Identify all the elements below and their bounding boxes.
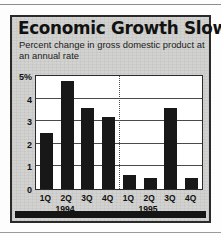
x-axis-tick-label: 3Q [81,193,92,203]
chart-title: Economic Growth Slows [18,18,221,38]
plot-area-wrapper: 012345% 1Q2Q3Q4Q1Q2Q3Q4Q19941995 [35,75,203,190]
chart-subtitle: Percent change in gross domestic product… [19,39,205,62]
plot-area [35,75,203,190]
chart-figure: Economic Growth Slows Percent change in … [10,15,211,223]
y-axis-tick-label: 3 [27,117,32,127]
figure-footer-bar [15,211,206,218]
x-axis-tick-label: 4Q [185,193,196,203]
bar [144,178,157,189]
bar [40,133,53,190]
x-axis-tick-label: 2Q [144,193,155,203]
bar [123,175,136,189]
bar [185,178,198,189]
x-axis-tick-label: 2Q [61,193,72,203]
page-bottom-rule [0,232,221,233]
year-divider [119,76,120,189]
y-axis-tick-label: 1 [27,162,32,172]
x-axis-tick-label: 3Q [164,193,175,203]
y-axis-tick-label: 4 [27,95,32,105]
y-axis-tick-label: 0 [27,185,32,195]
bar [81,108,94,189]
page-top-rule [0,4,221,5]
y-axis-tick-label: 5% [19,72,32,82]
y-axis-tick-label: 2 [27,140,32,150]
bar [102,117,115,189]
x-axis-tick-label: 4Q [102,193,113,203]
x-axis-tick-label: 1Q [123,193,134,203]
bar [61,81,74,189]
x-axis-tick-label: 1Q [40,193,51,203]
bar [164,108,177,189]
